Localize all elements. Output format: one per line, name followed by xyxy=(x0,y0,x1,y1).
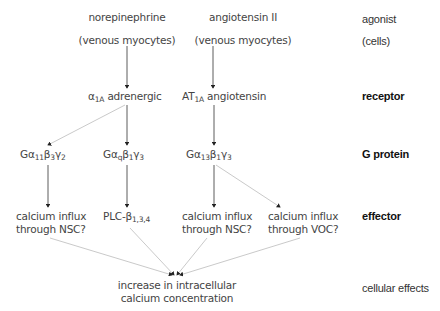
arrow-voc-to-calcium xyxy=(180,238,300,275)
arrow-plc-to-calcium xyxy=(130,228,174,275)
effector-line2: through NSC? xyxy=(182,223,252,236)
effector-nsc-1: calcium influx through NSC? xyxy=(16,210,86,236)
g-protein-ga13: Gα13β1γ3 xyxy=(186,148,232,161)
row-label-cells: (cells) xyxy=(362,35,390,48)
agonist-angiotensin-cells: (venous myocytes) xyxy=(195,34,292,47)
receptor-subscript: 1A xyxy=(95,95,105,104)
effector-line1: calcium influx xyxy=(268,210,338,223)
receptor-symbol: AT xyxy=(182,90,194,102)
agonist-norepinephrine-cells: (venous myocytes) xyxy=(79,34,176,47)
arrow-ga13-to-voc xyxy=(216,165,280,207)
row-label-g-protein: G protein xyxy=(362,148,409,161)
effector-voc: calcium influx through VOC? xyxy=(268,210,338,236)
effector-line1: calcium influx xyxy=(182,210,252,223)
g-protein-gaq: Gαqβ1γ3 xyxy=(103,148,144,161)
effector-line2: through VOC? xyxy=(268,223,338,236)
effector-nsc-2: calcium influx through NSC? xyxy=(182,210,252,236)
arrow-alpha1a-to-ga11 xyxy=(48,105,125,145)
row-label-cellular-effects: cellular effects xyxy=(362,282,429,295)
outcome-line1: increase in intracellular xyxy=(118,279,236,292)
receptor-symbol: α xyxy=(88,90,95,102)
effector-line1: calcium influx xyxy=(16,210,86,223)
row-label-effector: effector xyxy=(362,210,401,223)
outcome: increase in intracellular calcium concen… xyxy=(118,279,236,305)
arrow-nsc2-to-calcium xyxy=(177,238,207,275)
arrow-nsc1-to-calcium xyxy=(50,238,172,275)
receptor-alpha1a: α1A adrenergic xyxy=(88,90,162,103)
receptor-subscript: 1A xyxy=(194,95,204,104)
g-protein-ga11: Gα11β3γ2 xyxy=(20,148,66,161)
agonist-angiotensin: angiotensin II xyxy=(209,11,277,24)
agonist-norepinephrine: norepinephrine xyxy=(88,11,165,24)
row-label-agonist: agonist xyxy=(362,13,396,26)
effector-plc: PLC-β1,3,4 xyxy=(103,210,150,223)
outcome-line2: calcium concentration xyxy=(118,292,236,305)
receptor-name: adrenergic xyxy=(107,90,161,102)
receptor-at1a: AT1A angiotensin xyxy=(182,90,266,103)
effector-line2: through NSC? xyxy=(16,223,86,236)
row-label-receptor: receptor xyxy=(362,90,404,103)
receptor-name: angiotensin xyxy=(207,90,266,102)
